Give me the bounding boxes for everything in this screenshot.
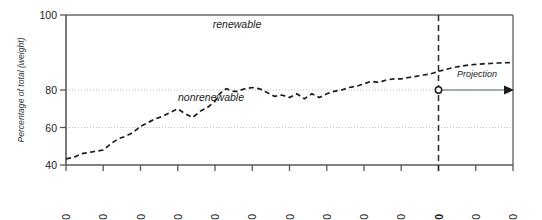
y-axis-title: Percentage of total (weight) <box>16 37 26 142</box>
chart-background <box>0 0 542 220</box>
x-tick-label-1970: 1970 <box>321 214 333 220</box>
x-tick-label-2000: 2000 <box>433 214 445 220</box>
x-tick-label-1990: 1990 <box>395 214 407 220</box>
x-tick-label-1930: 1930 <box>172 214 184 220</box>
projection-origin-marker <box>435 87 441 93</box>
y-tick-label-100: 100 <box>39 9 57 21</box>
x-tick-label-1960: 1960 <box>284 214 296 220</box>
series-label-nonrenewable: nonrenewable <box>178 91 244 103</box>
x-tick-label-1900: 1900 <box>60 214 72 220</box>
y-tick-label-40: 40 <box>45 159 57 171</box>
x-tick-label-1980: 1980 <box>358 214 370 220</box>
x-tick-label-1910: 1910 <box>97 214 109 220</box>
y-tick-label-80: 80 <box>45 84 57 96</box>
x-tick-label-1950: 1950 <box>246 214 258 220</box>
x-tick-label-1920: 1920 <box>135 214 147 220</box>
chart-svg: 100 80 60 40 Percentage of total (weight… <box>0 0 542 220</box>
series-label-renewable: renewable <box>213 18 262 30</box>
chart-container: 100 80 60 40 Percentage of total (weight… <box>0 0 542 220</box>
projection-label: Projection <box>457 69 497 79</box>
x-tick-label-2020: 2020 <box>507 214 519 220</box>
x-tick-label-1940: 1940 <box>209 214 221 220</box>
y-tick-label-60: 60 <box>45 122 57 134</box>
x-tick-label-2010: 2010 <box>470 214 482 220</box>
